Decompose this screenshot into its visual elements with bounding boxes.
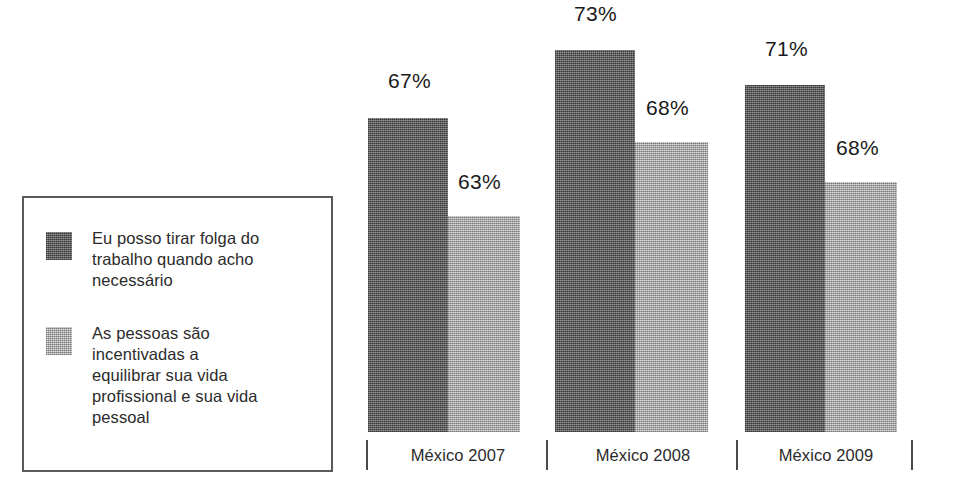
bar-value-group-2-series-0: 71% [765, 38, 808, 59]
axis-label-mexico-2007: México 2007 [372, 441, 544, 469]
bar-group-1-series-1 [635, 142, 708, 432]
bar-value-group-1-series-1: 68% [646, 97, 689, 118]
axis-label-mexico-2008: México 2008 [552, 441, 734, 469]
bar-group-1-series-0 [555, 50, 635, 432]
bar-group-2-series-0 [745, 85, 825, 432]
bar-group-0-series-0 [368, 118, 448, 432]
bar-value-group-0-series-1: 63% [458, 171, 501, 192]
axis-tick-0 [366, 440, 368, 470]
bar-group-2-series-1 [825, 182, 897, 432]
bar-value-group-1-series-0: 73% [574, 3, 617, 24]
axis-label-mexico-2009: México 2009 [742, 441, 910, 469]
plot-area: 67% 63% 73% 68% 71% 68% México 2007 Méxi… [0, 0, 954, 504]
bar-chart-figure: Eu posso tirar folga do trabalho quando … [0, 0, 954, 504]
bar-value-group-2-series-1: 68% [836, 137, 879, 158]
bar-group-0-series-1 [448, 216, 520, 432]
axis-tick-1 [546, 440, 548, 470]
axis-tick-3 [911, 440, 913, 470]
axis-tick-2 [736, 440, 738, 470]
bar-value-group-0-series-0: 67% [388, 70, 431, 91]
